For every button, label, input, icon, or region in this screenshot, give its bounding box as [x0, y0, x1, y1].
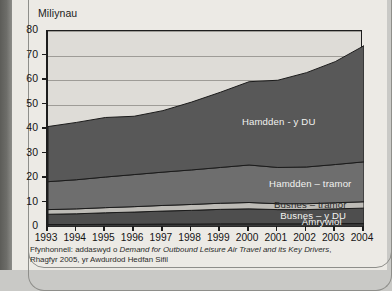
x-axis-tick-mark — [75, 226, 77, 231]
y-axis-tick-mark — [42, 176, 47, 178]
x-axis-tick-mark — [46, 226, 48, 231]
series-label-amrywiol: Amrywiol — [302, 216, 342, 227]
stacked-area-series — [48, 31, 364, 227]
x-axis-tick-mark — [161, 226, 163, 231]
y-axis-tick-label: 50 — [8, 97, 38, 109]
series-label-hamdden-y-du: Hamdden - y DU — [242, 116, 316, 127]
source-title: Demand for Outbound Leisure Air Travel a… — [119, 245, 329, 254]
x-axis-tick-mark — [247, 226, 249, 231]
y-axis-tick-mark — [42, 127, 47, 129]
y-axis-tick-label: 20 — [8, 170, 38, 182]
y-axis-tick-mark — [42, 78, 47, 80]
x-axis-tick-mark — [132, 226, 134, 231]
y-axis-tick-label: 60 — [8, 72, 38, 84]
y-axis-tick-mark — [42, 54, 47, 56]
x-axis-tick-mark — [218, 226, 220, 231]
y-axis-tick-label: 80 — [8, 23, 38, 35]
y-axis-tick-label: 10 — [8, 195, 38, 207]
x-axis-tick-label: 2004 — [342, 232, 382, 243]
chart-canvas — [46, 30, 362, 226]
y-axis-tick-label: 30 — [8, 146, 38, 158]
y-axis-tick-mark — [42, 103, 47, 105]
source-citation: Ffynhonnell: addaswyd o Demand for Outbo… — [30, 245, 360, 266]
x-axis-tick-mark — [276, 226, 278, 231]
x-axis-tick-mark — [190, 226, 192, 231]
y-axis-tick-label: 0 — [8, 219, 38, 231]
y-axis-tick-label: 70 — [8, 48, 38, 60]
area-band — [48, 46, 364, 182]
series-label-hamdden-tramor: Hamdden – tramor — [269, 178, 351, 189]
x-axis-tick-mark — [103, 226, 105, 231]
y-axis-tick-mark — [42, 152, 47, 154]
y-axis-tick-mark — [42, 201, 47, 203]
x-axis-tick-mark — [362, 226, 364, 231]
source-prefix: Ffynhonnell: addaswyd o — [30, 245, 119, 254]
y-axis-tick-label: 40 — [8, 121, 38, 133]
